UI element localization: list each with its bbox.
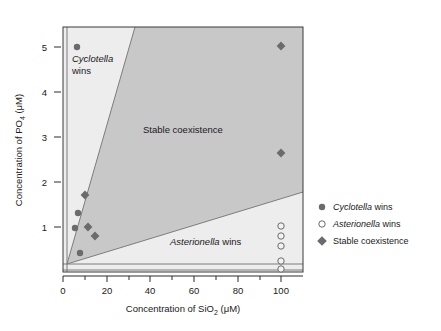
data-point-asterionella xyxy=(278,243,284,249)
x-tick-label-80: 80 xyxy=(233,285,244,296)
x-tick-label-60: 60 xyxy=(189,285,200,296)
x-tick-label-0: 0 xyxy=(60,285,65,296)
x-tick-label-100: 100 xyxy=(273,285,289,296)
legend-label-cyclotella-italic: Cyclotella xyxy=(333,202,372,212)
x-tick-label-20: 20 xyxy=(102,285,113,296)
figure-root: 0 20 40 60 80 100 1 2 3 4 5 Concentratio… xyxy=(0,0,441,331)
y-axis-title: Concentration of PO4 (μM) xyxy=(13,94,26,206)
legend-marker-open-circle xyxy=(319,221,325,227)
legend-label-asterionella: Asterionella wins xyxy=(332,219,401,229)
data-point-cyclotella xyxy=(77,250,83,256)
legend-label-cyclotella-roman: wins xyxy=(372,202,393,212)
region-label-cyclotella-italic: Cyclotella xyxy=(72,53,113,64)
legend-marker-filled-circle xyxy=(319,204,325,210)
data-point-cyclotella xyxy=(75,210,81,216)
y-tick-labels: 1 2 3 4 5 xyxy=(42,42,47,233)
x-axis-title: Concentration of SiO2 (μM) xyxy=(126,303,240,316)
region-label-asterionella-text: Asterionella wins xyxy=(169,236,242,247)
x-axis-title-pre: Concentration of SiO xyxy=(126,303,214,314)
region-label-asterionella-roman: wins xyxy=(220,236,242,247)
x-axis xyxy=(63,276,303,282)
x-axis-title-post: (μM) xyxy=(218,303,240,314)
legend: Cyclotella wins Asterionella wins Stable… xyxy=(317,202,408,246)
data-point-cyclotella xyxy=(72,225,78,231)
data-point-asterionella xyxy=(278,223,284,229)
y-axis-title-pre: Concentration of PO xyxy=(13,120,24,206)
region-label-asterionella: Asterionella wins xyxy=(169,236,242,247)
legend-label-cyclotella: Cyclotella wins xyxy=(333,202,393,212)
data-point-asterionella xyxy=(278,266,284,272)
data-point-cyclotella xyxy=(74,44,80,50)
legend-label-asterionella-roman: wins xyxy=(380,219,401,229)
y-tick-label-4: 4 xyxy=(42,87,47,98)
y-axis xyxy=(54,47,61,227)
region-label-stable-coexistence: Stable coexistence xyxy=(143,124,223,135)
region-label-asterionella-italic: Asterionella xyxy=(169,236,220,247)
legend-label-asterionella-italic: Asterionella xyxy=(332,219,380,229)
y-tick-label-2: 2 xyxy=(42,177,47,188)
legend-label-stable-coexistence: Stable coexistence xyxy=(333,236,409,246)
legend-marker-filled-diamond xyxy=(317,236,327,246)
region-label-cyclotella-roman: wins xyxy=(71,65,91,76)
y-axis-title-post: (μM) xyxy=(13,94,24,116)
competition-scatter-chart: 0 20 40 60 80 100 1 2 3 4 5 Concentratio… xyxy=(0,0,441,331)
y-tick-label-5: 5 xyxy=(42,42,47,53)
x-tick-label-40: 40 xyxy=(145,285,156,296)
data-point-asterionella xyxy=(278,258,284,264)
data-point-asterionella xyxy=(278,233,284,239)
y-tick-label-3: 3 xyxy=(42,132,47,143)
x-tick-labels: 0 20 40 60 80 100 xyxy=(60,285,289,296)
y-tick-label-1: 1 xyxy=(42,222,47,233)
